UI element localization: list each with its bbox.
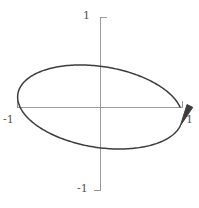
axes-group (17, 17, 183, 191)
plot-canvas (0, 0, 199, 208)
x-axis-tick-label-right: 1 (186, 114, 193, 125)
x-axis-tick-label-left: -1 (3, 114, 14, 125)
ellipse-curve-group (18, 65, 181, 149)
plot-figure: 1 -1 -1 1 (0, 0, 199, 208)
y-axis-tick-label-bottom: -1 (77, 183, 88, 194)
ellipse-curve (18, 65, 181, 149)
y-axis-tick-label-top: 1 (83, 10, 90, 21)
